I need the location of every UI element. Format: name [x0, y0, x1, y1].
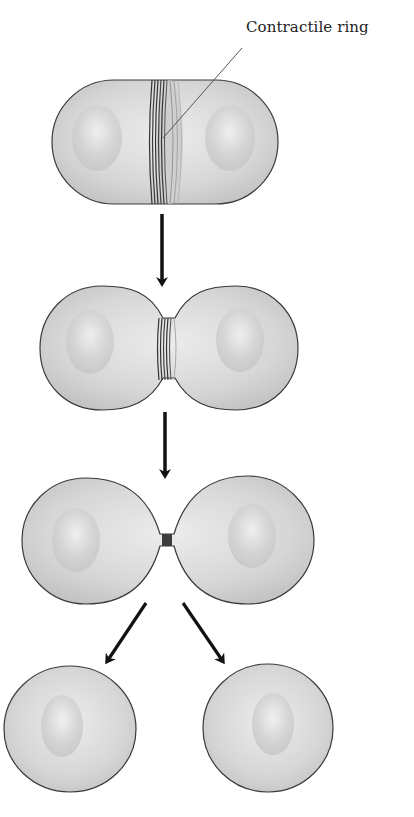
nucleus-right [252, 693, 294, 755]
stage-1-cell [52, 48, 278, 204]
nucleus-left [41, 695, 83, 757]
arrow-down-left-icon [108, 603, 146, 660]
contractile-ring [162, 534, 172, 546]
nucleus-right [205, 105, 255, 171]
nucleus-left [72, 105, 122, 171]
stage-3-cell [22, 476, 314, 604]
arrow-down-right-icon [183, 603, 222, 660]
stage-4-daughter-cells [4, 664, 333, 792]
stage-2-cell [40, 286, 298, 410]
nucleus-left [66, 310, 114, 374]
nucleus-right [216, 308, 264, 372]
nucleus-right [228, 504, 276, 568]
nucleus-left [52, 508, 100, 572]
contractile-ring-label: Contractile ring [246, 18, 369, 36]
cytokinesis-diagram [0, 0, 414, 817]
